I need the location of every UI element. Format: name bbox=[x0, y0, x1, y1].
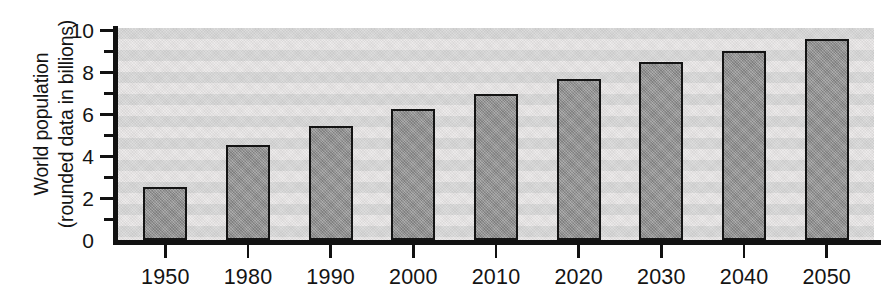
bar-slot-2020 bbox=[537, 28, 620, 240]
x-tick-slot-2020 bbox=[537, 245, 620, 258]
y-axis-line bbox=[113, 26, 118, 242]
x-tick-2040 bbox=[743, 245, 746, 258]
x-tick-1990 bbox=[329, 245, 332, 258]
bar-2040 bbox=[722, 51, 766, 240]
x-tick-2020 bbox=[577, 245, 580, 258]
y-tick-minor-7 bbox=[104, 92, 113, 95]
x-label-1950: 1950 bbox=[124, 264, 207, 296]
plot-area bbox=[118, 28, 874, 240]
x-axis-labels: 1950 1980 1990 2000 2010 2020 2030 2040 … bbox=[118, 264, 874, 296]
y-tick-major-6 bbox=[100, 113, 113, 116]
y-tick-label-4: 4 bbox=[34, 146, 94, 167]
x-label-1980: 1980 bbox=[207, 264, 290, 296]
x-tick-slot-1990 bbox=[289, 245, 372, 258]
bar-slot-1990 bbox=[289, 28, 372, 240]
y-tick-label-6: 6 bbox=[34, 104, 94, 125]
bar-slot-2050 bbox=[785, 28, 868, 240]
bar-2000 bbox=[391, 109, 435, 240]
bar-slot-2040 bbox=[703, 28, 786, 240]
y-tick-label-8: 8 bbox=[34, 62, 94, 83]
y-tick-minor-9 bbox=[104, 50, 113, 53]
y-tick-label-10: 10 bbox=[34, 20, 94, 41]
x-axis-ticks bbox=[118, 245, 874, 258]
x-label-1990: 1990 bbox=[289, 264, 372, 296]
y-tick-major-4 bbox=[100, 155, 113, 158]
y-tick-major-8 bbox=[100, 71, 113, 74]
bar-slot-2010 bbox=[455, 28, 538, 240]
x-label-2010: 2010 bbox=[455, 264, 538, 296]
x-label-2030: 2030 bbox=[620, 264, 703, 296]
y-tick-label-2: 2 bbox=[34, 188, 94, 209]
x-tick-slot-1950 bbox=[124, 245, 207, 258]
bar-2050 bbox=[805, 39, 849, 240]
x-tick-2050 bbox=[825, 245, 828, 258]
bar-slot-2030 bbox=[620, 28, 703, 240]
bar-1950 bbox=[143, 187, 187, 240]
x-tick-1950 bbox=[164, 245, 167, 258]
x-tick-slot-2050 bbox=[785, 245, 868, 258]
x-tick-slot-2000 bbox=[372, 245, 455, 258]
y-tick-major-10 bbox=[100, 29, 113, 32]
x-label-2040: 2040 bbox=[703, 264, 786, 296]
bar-2030 bbox=[639, 62, 683, 240]
bar-series bbox=[118, 28, 874, 240]
y-tick-minor-3 bbox=[104, 176, 113, 179]
x-tick-1980 bbox=[247, 245, 250, 258]
bar-slot-1980 bbox=[207, 28, 290, 240]
bar-slot-1950 bbox=[124, 28, 207, 240]
x-tick-2010 bbox=[495, 245, 498, 258]
bar-1980 bbox=[226, 145, 270, 240]
x-label-2020: 2020 bbox=[537, 264, 620, 296]
x-tick-slot-2040 bbox=[703, 245, 786, 258]
x-tick-2030 bbox=[660, 245, 663, 258]
y-tick-label-0: 0 bbox=[34, 230, 94, 251]
bar-2010 bbox=[474, 94, 518, 240]
bar-slot-2000 bbox=[372, 28, 455, 240]
x-label-2050: 2050 bbox=[785, 264, 868, 296]
x-tick-2000 bbox=[412, 245, 415, 258]
y-tick-minor-5 bbox=[104, 134, 113, 137]
y-tick-minor-1 bbox=[104, 218, 113, 221]
y-tick-major-2 bbox=[100, 197, 113, 200]
bar-chart-figure: World population (rounded data in billio… bbox=[0, 0, 892, 305]
x-tick-slot-2010 bbox=[455, 245, 538, 258]
x-label-2000: 2000 bbox=[372, 264, 455, 296]
bar-2020 bbox=[557, 79, 601, 240]
x-tick-slot-1980 bbox=[207, 245, 290, 258]
bar-1990 bbox=[309, 126, 353, 240]
x-tick-slot-2030 bbox=[620, 245, 703, 258]
